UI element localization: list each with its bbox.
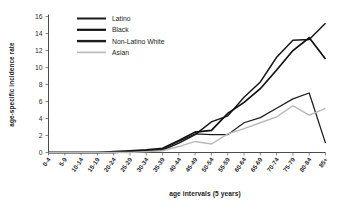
- y-tick-label: 4: [39, 115, 43, 122]
- x-tick-label: 55-59: [216, 156, 231, 173]
- legend-item-latino: Latino: [77, 15, 131, 22]
- y-tick-label: 8: [39, 81, 43, 88]
- x-axis-title: age intervals (5 years): [169, 190, 241, 198]
- x-tick-label: 10-14: [70, 156, 85, 173]
- incidence-rate-line-chart: 0246810121416 0-45-910-1415-1920-2425-29…: [0, 0, 340, 210]
- legend-item-asian: Asian: [77, 49, 129, 56]
- x-axis-ticks: 0-45-910-1415-1920-2425-2930-3435-3940-4…: [41, 153, 329, 174]
- x-tick-label: 70-74: [265, 156, 280, 173]
- data-series: [49, 23, 326, 152]
- legend-item-black: Black: [77, 26, 129, 33]
- series-line-black: [49, 38, 326, 153]
- x-tick-label: 25-29: [118, 156, 133, 173]
- chart-legend: LatinoBlackNon-Latino WhiteAsian: [77, 15, 165, 56]
- x-tick-label: 75-79: [281, 156, 296, 173]
- y-axis-title: age-specific incidence rate: [8, 42, 16, 127]
- y-tick-label: 6: [39, 98, 43, 105]
- x-tick-label: 45-49: [184, 156, 199, 173]
- x-tick-label: 60-64: [233, 156, 248, 173]
- x-tick-label: 20-24: [102, 156, 117, 173]
- y-tick-label: 14: [35, 30, 43, 37]
- legend-item-non-latino-white: Non-Latino White: [77, 38, 165, 45]
- legend-label: Black: [112, 26, 129, 33]
- x-tick-label: 35-39: [151, 156, 166, 173]
- legend-label: Asian: [112, 49, 129, 56]
- y-axis-ticks: 0246810121416: [35, 13, 49, 156]
- y-tick-label: 0: [39, 149, 43, 156]
- legend-label: Non-Latino White: [112, 38, 165, 45]
- x-tick-label: 0-4: [41, 156, 52, 168]
- x-tick-label: 5-9: [57, 156, 68, 168]
- series-line-latino: [49, 23, 326, 152]
- y-tick-label: 16: [35, 13, 43, 20]
- y-tick-label: 2: [39, 132, 43, 139]
- series-line-asian: [49, 106, 326, 153]
- x-tick-label: 40-44: [167, 156, 182, 173]
- y-tick-label: 10: [35, 64, 43, 71]
- x-tick-label: 50-54: [200, 156, 215, 173]
- chart-container: 0246810121416 0-45-910-1415-1920-2425-29…: [0, 0, 340, 210]
- x-tick-label: 15-19: [86, 156, 101, 173]
- axis-lines: [49, 15, 326, 153]
- axes: [49, 15, 326, 153]
- axis-titles: age-specific incidence rateage intervals…: [8, 42, 241, 198]
- x-tick-label: 80-84: [298, 156, 313, 173]
- x-tick-label: 65-69: [249, 156, 264, 173]
- x-tick-label: 30-34: [135, 156, 150, 173]
- x-tick-label: 85+: [317, 156, 329, 169]
- y-tick-label: 12: [35, 47, 43, 54]
- legend-label: Latino: [112, 15, 131, 22]
